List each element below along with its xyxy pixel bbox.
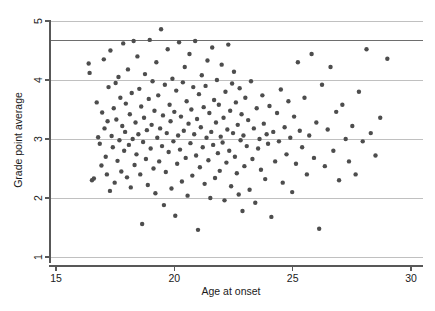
data-point — [309, 52, 313, 56]
data-point — [320, 83, 324, 87]
data-point — [183, 65, 187, 69]
data-point — [257, 137, 261, 141]
data-point — [145, 128, 149, 132]
data-point — [237, 192, 241, 196]
data-point — [170, 77, 174, 81]
data-point — [146, 183, 150, 187]
data-point — [264, 132, 268, 136]
data-point — [130, 137, 134, 141]
data-point — [133, 120, 137, 124]
data-point — [292, 114, 296, 118]
data-point — [204, 136, 208, 140]
data-point — [124, 101, 128, 105]
data-points-group — [86, 27, 389, 232]
data-point — [350, 124, 354, 128]
data-point — [331, 149, 335, 153]
data-point — [191, 85, 195, 89]
data-point — [112, 180, 116, 184]
data-point — [98, 142, 102, 146]
data-point — [166, 150, 170, 154]
data-point — [123, 130, 127, 134]
data-point — [172, 110, 176, 114]
data-point — [225, 127, 229, 131]
x-axis-title: Age at onset — [202, 285, 261, 297]
data-point — [209, 130, 213, 134]
data-point — [314, 120, 318, 124]
data-point — [223, 90, 227, 94]
data-point — [203, 84, 207, 88]
data-point — [328, 65, 332, 69]
data-point — [160, 144, 164, 148]
axis-spines-group — [49, 20, 423, 266]
data-point — [205, 58, 209, 62]
data-point — [136, 132, 140, 136]
data-point — [245, 144, 249, 148]
x-tick-label-15: 15 — [50, 272, 62, 284]
data-point — [87, 71, 91, 75]
data-point — [242, 164, 246, 168]
data-point — [334, 110, 338, 114]
data-point — [113, 81, 117, 85]
data-point — [323, 164, 327, 168]
data-point — [118, 96, 122, 100]
data-point — [152, 108, 156, 112]
data-point — [187, 52, 191, 56]
y-tick-label-2: 2 — [32, 195, 44, 201]
data-point — [102, 126, 106, 130]
data-point — [156, 93, 160, 97]
data-point — [105, 119, 109, 123]
x-tick-label-25: 25 — [287, 272, 299, 284]
data-point — [116, 75, 120, 79]
data-point — [369, 131, 373, 135]
data-point — [259, 167, 263, 171]
data-point — [157, 159, 161, 163]
data-point — [214, 120, 218, 124]
data-point — [262, 121, 266, 125]
data-point — [140, 222, 144, 226]
data-point — [139, 104, 143, 108]
data-point — [305, 172, 309, 176]
data-point — [125, 175, 129, 179]
y-axis-title: Grade point average — [12, 92, 24, 188]
x-tick-label-30: 30 — [405, 272, 417, 284]
data-point — [181, 80, 185, 84]
data-point — [115, 159, 119, 163]
data-point — [147, 97, 151, 101]
data-point — [106, 85, 110, 89]
data-point — [237, 86, 241, 90]
data-point — [240, 209, 244, 213]
data-point — [236, 123, 240, 127]
y-tick-label-4: 4 — [32, 77, 44, 83]
data-point — [173, 214, 177, 218]
data-point — [208, 196, 212, 200]
data-point — [168, 119, 172, 123]
data-point — [120, 124, 124, 128]
data-point — [260, 93, 264, 97]
data-point — [224, 160, 228, 164]
data-point — [166, 47, 170, 51]
data-point — [202, 182, 206, 186]
data-point — [119, 169, 123, 173]
data-point — [188, 141, 192, 145]
data-point — [158, 126, 162, 130]
data-point — [300, 145, 304, 149]
x-tick-label-20: 20 — [168, 272, 180, 284]
data-point — [275, 111, 279, 115]
data-point — [361, 139, 365, 143]
data-point — [104, 155, 108, 159]
data-point — [249, 79, 253, 83]
data-point — [231, 131, 235, 135]
data-point — [286, 99, 290, 103]
data-point — [290, 190, 294, 194]
data-point — [337, 178, 341, 182]
data-point — [175, 162, 179, 166]
data-point — [135, 54, 139, 58]
data-point — [296, 60, 300, 64]
gridlines-group — [50, 21, 423, 257]
data-point — [99, 163, 103, 167]
y-axis-tick-labels: 12345 — [32, 18, 44, 260]
data-point — [159, 27, 163, 31]
data-point — [357, 90, 361, 94]
data-point — [96, 135, 100, 139]
data-point — [294, 162, 298, 166]
